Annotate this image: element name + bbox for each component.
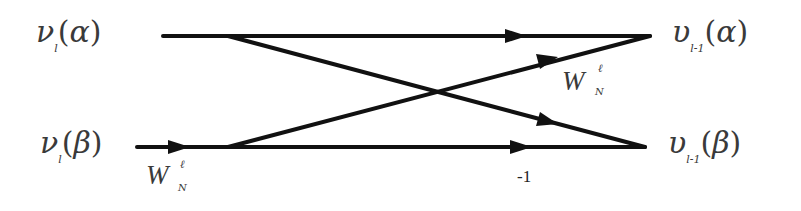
twiddle-base: W — [562, 66, 585, 96]
arrow-icon — [168, 140, 190, 154]
paren-close: ) — [736, 14, 748, 49]
input-alpha-label: νl(α) — [36, 14, 101, 49]
twiddle-base: W — [146, 160, 169, 190]
butterfly-diagram: νl(α) νl(β) υl-1(α) υl-1(β) W ℓ N W ℓ N … — [0, 0, 801, 211]
twiddle-subscript: N — [178, 182, 187, 193]
paren-close: ) — [730, 125, 742, 160]
subscript: l — [54, 42, 58, 55]
output-beta-label: υl-1(β) — [668, 125, 741, 160]
symbol: υ — [668, 125, 686, 160]
argument: β — [712, 125, 729, 160]
output-alpha-label: υl-1(α) — [672, 14, 748, 49]
subscript: l-1 — [686, 153, 700, 166]
paren-open: ( — [62, 125, 74, 160]
symbol: ν — [36, 14, 54, 49]
twiddle-factor-cross: W ℓ N — [562, 66, 612, 106]
twiddle-factor-input: W ℓ N — [146, 160, 196, 200]
symbol: ν — [40, 125, 58, 160]
symbol: υ — [672, 14, 690, 49]
paren-close: ) — [91, 125, 103, 160]
twiddle-superscript: ℓ — [180, 158, 185, 171]
arrow-icon — [536, 112, 558, 126]
input-beta-label: νl(β) — [40, 125, 103, 160]
paren-close: ) — [90, 14, 102, 49]
argument: α — [716, 14, 736, 49]
argument: α — [70, 14, 90, 49]
paren-open: ( — [700, 125, 712, 160]
paren-open: ( — [58, 14, 70, 49]
paren-open: ( — [704, 14, 716, 49]
subscript: l — [58, 153, 62, 166]
twiddle-superscript: ℓ — [598, 62, 603, 75]
argument: β — [74, 125, 91, 160]
arrow-icon — [510, 140, 532, 154]
subscript: l-1 — [690, 42, 704, 55]
arrow-icon — [505, 29, 527, 43]
twiddle-subscript: N — [595, 86, 604, 97]
multiplier-label: -1 — [517, 167, 531, 187]
